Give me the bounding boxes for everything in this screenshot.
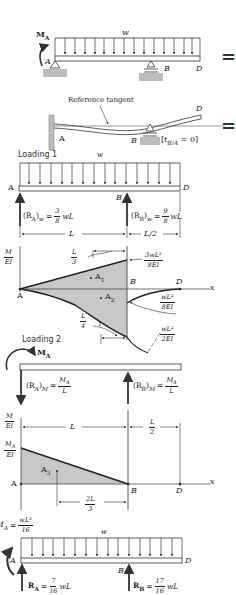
load-label-result: w [101,529,107,536]
equals-sign-2: = [221,117,236,135]
dim-overhang-1: L/2 [144,230,157,238]
reaction-b-equation-2: (RB)M = MAL [133,377,178,395]
axis-y-label-2: MEI [5,413,14,429]
fixed-wall [49,115,54,150]
moment-label-1: MA [36,30,50,41]
axis-x-label-1: x [210,284,215,292]
deflected-beam-bottom [54,119,201,135]
axis-x-label-2: x [210,478,215,486]
point-b-2: B [131,137,137,145]
loading-2-moment-diagram [20,410,210,510]
area-a2-label: A2 [105,293,115,303]
reaction-a-result: RA = 716 wL [28,578,71,594]
dim-span-1: L [69,230,74,238]
result-moment-equation: MA = wL²16 [0,517,33,533]
ground-a [43,69,67,77]
load-label-loading-1: w [97,152,103,159]
loading-1-beam [19,163,180,238]
pin-support-a [50,61,60,68]
point-d-result: D [185,557,191,565]
point-b-loading-1: B [116,194,122,202]
point-d-1: D [196,65,202,73]
deflected-beam-top [54,115,201,131]
dim-overhang-2: L2 [149,419,155,435]
reaction-a-equation-1: (RA)w = 38 wL [23,208,74,224]
panel-actual-beam [40,38,200,81]
point-b-result: B [118,567,124,575]
point-b-1: B [164,65,170,73]
point-a-diagram-2: A [11,480,17,488]
loading-2-title: Loading 2 [22,336,61,344]
dim-span-2: L [70,423,75,431]
peak-value-1: 3wL²8EI [144,252,163,268]
reference-tangent-label: Reference tangent [68,97,134,104]
load-label-1: w [122,29,129,37]
point-d-diagram-2: D [176,487,182,495]
point-b-diagram-1: B [130,278,136,286]
point-a-diagram-1: A [17,292,23,300]
area-a1-label: A1 [95,273,105,283]
reaction-b-result: RB = 1716 wL [133,578,178,594]
load-arrows-1 [55,38,200,56]
point-a-1: A [45,58,51,66]
roller-support-b [147,61,155,67]
axis-y-label-1: MEI [4,249,13,265]
centroid-dim-1: L3 [71,249,77,265]
area-a3-label: A3 [41,466,51,476]
reaction-a-equation-2: (RA)M = MAL [26,377,71,395]
peak-value-3: wL²2EI [160,326,175,342]
deflection-condition: [tB/A = 0] [161,136,198,146]
point-a-loading-1: A [8,184,14,192]
beam-1 [55,56,200,61]
point-a-result: A [10,557,16,565]
centroid-dim-2: L4 [80,313,86,329]
point-d-2: D [196,105,202,113]
ground-b [139,73,163,81]
equals-sign-1: = [221,48,236,66]
point-a-2: A [59,135,65,143]
peak-value-loading-2: MAEI [4,441,16,459]
centroid-dim-3: 2L3 [85,496,95,512]
tick-label-1: 1 [98,321,102,327]
point-d-loading-1: D [183,184,189,192]
loading-1-title: Loading 1 [18,151,57,159]
moment-label-loading-2: MA [37,348,51,359]
point-d-diagram-1: D [176,278,182,286]
peak-value-2: wL²8EI [160,294,175,310]
reaction-b-equation-1: (RB)w = 98 wL [131,208,182,224]
point-b-diagram-2: B [131,487,137,495]
